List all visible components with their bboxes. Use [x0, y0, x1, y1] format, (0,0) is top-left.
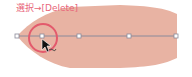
- anchor-point[interactable]: [174, 34, 178, 38]
- anchor-point[interactable]: [127, 34, 131, 38]
- illustration-canvas: 選択→[Delete]: [0, 0, 192, 77]
- instruction-label: 選択→[Delete]: [16, 3, 78, 14]
- anchor-point[interactable]: [77, 34, 81, 38]
- anchor-point[interactable]: [15, 34, 19, 38]
- anchor-point-selected[interactable]: [40, 34, 44, 38]
